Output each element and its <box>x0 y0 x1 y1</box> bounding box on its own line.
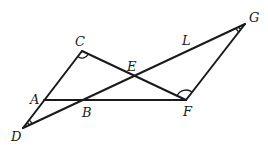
point-label-L: L <box>181 33 191 48</box>
point-label-F: F <box>182 104 193 119</box>
point-label-C: C <box>75 34 85 49</box>
point-label-G: G <box>249 10 259 25</box>
angle-mark-G-outer <box>236 28 239 32</box>
point-label-B: B <box>81 105 92 120</box>
point-label-E: E <box>126 59 137 74</box>
segment-DG <box>23 24 245 128</box>
geometry-diagram: A B C D E F G L <box>0 0 268 146</box>
angle-mark-D-outer <box>29 120 32 124</box>
point-label-D: D <box>10 129 22 144</box>
segment-GF <box>186 24 245 100</box>
segment-DC <box>23 51 82 128</box>
point-label-A: A <box>29 92 39 107</box>
